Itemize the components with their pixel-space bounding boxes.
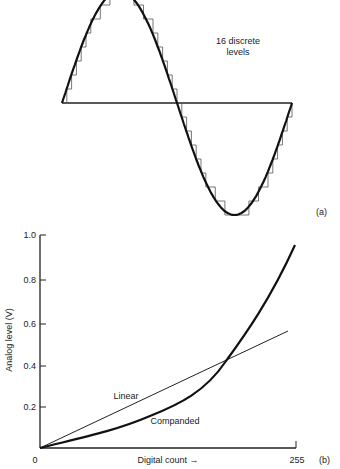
panel-b-label: (b) <box>319 455 330 465</box>
y-tick-label-0.4: 0.4 <box>23 361 36 371</box>
companded-label: Companded <box>150 416 199 426</box>
x-axis-title: Digital count → <box>137 455 198 465</box>
quantized-staircase <box>62 0 292 215</box>
linear-line <box>40 331 288 448</box>
annotation-16-levels-line1: 16 discrete <box>216 36 260 46</box>
y-tick-label-0.6: 0.6 <box>23 319 36 329</box>
y-tick-label-0.8: 0.8 <box>23 275 36 285</box>
linear-label: Linear <box>113 391 138 401</box>
panel-b: 1.0 0.8 0.6 0.4 0.2 0 255 Digital count … <box>4 230 330 465</box>
annotation-16-levels-line2: levels <box>226 47 250 57</box>
sine-wave <box>62 0 292 215</box>
y-axis-title: Analog level (V) <box>4 308 14 372</box>
y-tick-label-0.2: 0.2 <box>23 402 36 412</box>
x-tick-label-255: 255 <box>289 455 304 465</box>
x-tick-label-0: 0 <box>32 455 37 465</box>
panel-a: 16 discrete levels (a) <box>62 0 327 217</box>
y-tick-label-1.0: 1.0 <box>23 230 36 240</box>
panel-a-label: (a) <box>316 207 327 217</box>
figure: 16 discrete levels (a) 1.0 0.8 0.6 0.4 0… <box>0 0 340 469</box>
